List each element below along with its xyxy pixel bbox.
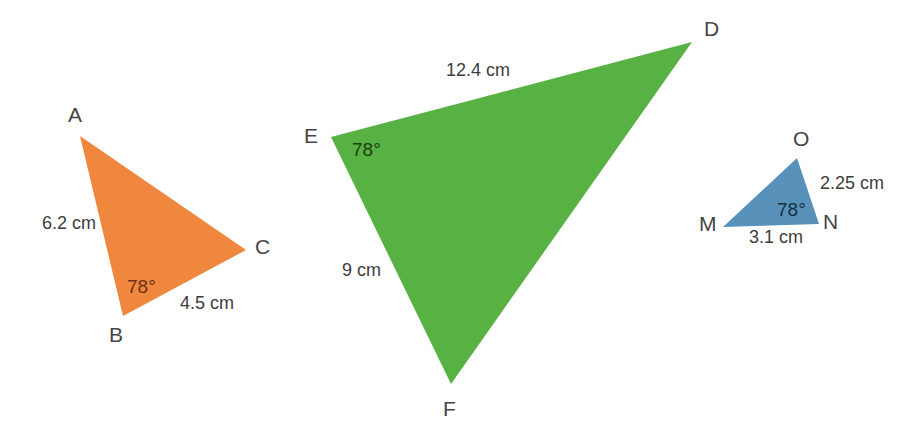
side-label-ed: 12.4 cm: [446, 61, 510, 79]
green-triangle-shape: [331, 42, 692, 384]
side-label-on: 2.25 cm: [820, 174, 884, 192]
side-label-ab: 6.2 cm: [42, 214, 96, 232]
vertex-label-m: M: [699, 213, 717, 234]
angle-label-abc: 78°: [127, 277, 156, 296]
side-label-bc: 4.5 cm: [180, 294, 234, 312]
vertex-label-o: O: [793, 128, 809, 149]
orange-triangle-shape: [80, 136, 246, 316]
side-label-mn: 3.1 cm: [749, 228, 803, 246]
vertex-label-n: N: [823, 211, 838, 232]
vertex-label-d: D: [704, 18, 719, 39]
side-label-ef: 9 cm: [342, 261, 381, 279]
vertex-label-f: F: [443, 398, 456, 419]
angle-label-def: 78°: [352, 140, 381, 159]
vertex-label-e: E: [304, 125, 318, 146]
angle-label-mno: 78°: [777, 200, 806, 219]
vertex-label-b: B: [109, 324, 123, 345]
vertex-label-c: C: [255, 236, 270, 257]
vertex-label-a: A: [68, 104, 82, 125]
geometry-figure: A B C 6.2 cm 4.5 cm 78° D E F 12.4 cm 9 …: [0, 0, 923, 445]
